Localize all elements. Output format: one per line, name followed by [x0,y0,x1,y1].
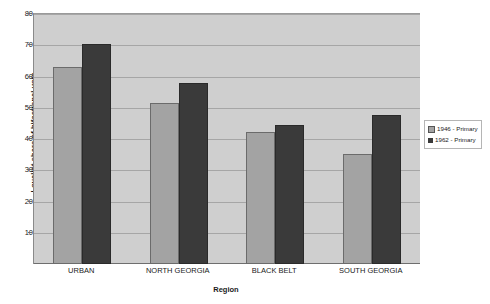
bar [179,83,208,264]
bar [275,125,304,264]
x-category-label: SOUTH GEORGIA [339,266,402,275]
legend-swatch-icon [428,126,435,133]
x-category-label: URBAN [68,266,94,275]
plot-inner [34,14,420,264]
y-tick-mark [28,76,32,77]
x-category-label: BLACK BELT [252,266,297,275]
legend-label: 1946 - Primary [437,125,478,133]
y-tick-mark [28,138,32,139]
bar [82,44,111,264]
legend: 1946 - Primary1962 - Primary [424,120,482,149]
y-axis-ticks: 1020304050607080 [0,13,33,263]
x-axis-category-labels: URBANNORTH GEORGIABLACK BELTSOUTH GEORGI… [33,266,419,280]
x-category-label: NORTH GEORGIA [146,266,210,275]
y-tick-mark [28,44,32,45]
bar [53,67,82,265]
gridline [34,14,420,15]
legend-item: 1962 - Primary [428,135,479,145]
bar [246,132,275,264]
y-tick-mark [28,232,32,233]
bar [343,154,372,264]
legend-item: 1946 - Primary [428,124,479,134]
y-tick-mark [28,201,32,202]
legend-label: 1962 - Primary [435,136,476,144]
legend-swatch-icon [428,138,433,143]
y-tick-mark [28,13,32,14]
bar [372,115,401,264]
plot-area [33,13,420,264]
y-tick-mark [28,107,32,108]
bar [150,103,179,264]
x-axis-title: Region [33,285,419,294]
bar-chart: Loyalist share of bifactional vote 10203… [0,0,490,304]
y-tick-mark [28,169,32,170]
